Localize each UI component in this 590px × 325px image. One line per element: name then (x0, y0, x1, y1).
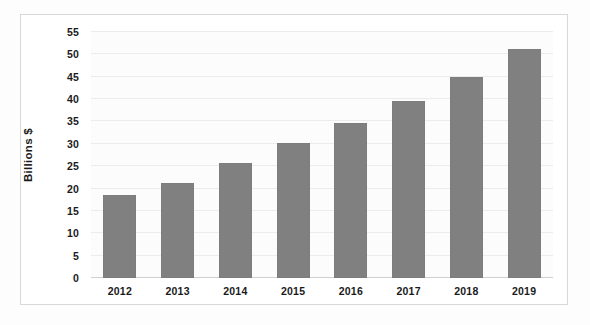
y-axis-tick-label: 5 (73, 250, 79, 262)
bar-2012[interactable] (103, 195, 136, 278)
bar-slot (380, 32, 438, 278)
bar-slot (264, 32, 322, 278)
bar-slot (91, 32, 149, 278)
bar-slot (438, 32, 496, 278)
y-axis-tick-label: 15 (67, 205, 79, 217)
bar-2018[interactable] (450, 77, 483, 278)
scanned-page: Billions $ 0510152025303540455055 201220… (0, 0, 590, 325)
plot-area (91, 32, 553, 278)
bar-series (91, 32, 553, 278)
bar-2017[interactable] (392, 101, 425, 278)
bar-2016[interactable] (334, 123, 367, 278)
x-axis-tick-label: 2013 (149, 285, 207, 297)
y-axis-tick-label: 10 (67, 227, 79, 239)
bar-slot (149, 32, 207, 278)
bar-slot (322, 32, 380, 278)
x-axis-tick-label: 2015 (264, 285, 322, 297)
chart-frame: Billions $ 0510152025303540455055 201220… (20, 14, 568, 305)
x-axis-tick-labels: 20122013201420152016201720182019 (91, 285, 553, 297)
y-axis-tick-label: 40 (67, 93, 79, 105)
x-axis-tick-label: 2012 (91, 285, 149, 297)
y-axis-tick-label: 25 (67, 160, 79, 172)
y-axis-tick-labels: 0510152025303540455055 (21, 32, 85, 278)
bar-2013[interactable] (161, 183, 194, 278)
x-axis-tick-label: 2019 (495, 285, 553, 297)
y-axis-tick-label: 35 (67, 115, 79, 127)
bar-2015[interactable] (277, 143, 310, 278)
bar-2014[interactable] (219, 163, 252, 278)
x-axis-tick-label: 2016 (322, 285, 380, 297)
bar-slot (207, 32, 265, 278)
x-axis-tick-label: 2017 (380, 285, 438, 297)
x-axis-tick-label: 2014 (207, 285, 265, 297)
y-axis-tick-label: 30 (67, 138, 79, 150)
y-axis-tick-label: 55 (67, 26, 79, 38)
x-axis-tick-label: 2018 (438, 285, 496, 297)
y-axis-tick-label: 20 (67, 183, 79, 195)
y-axis-tick-label: 50 (67, 48, 79, 60)
bar-2019[interactable] (508, 49, 541, 278)
y-axis-tick-label: 45 (67, 71, 79, 83)
bar-slot (495, 32, 553, 278)
y-axis-tick-label: 0 (73, 272, 79, 284)
